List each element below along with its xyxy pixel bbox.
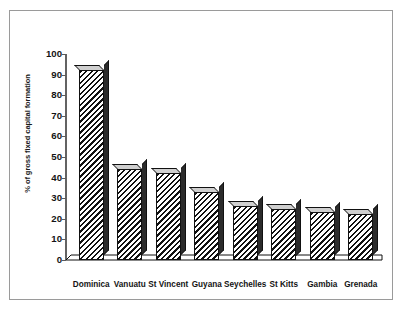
y-axis-tick-label: 20 <box>36 214 62 224</box>
bar <box>117 169 142 260</box>
bar-side-face <box>142 159 147 255</box>
y-axis-tick-label: 90 <box>36 70 62 80</box>
bar-front-face <box>194 192 219 260</box>
y-axis-tick-label: 30 <box>36 193 62 203</box>
bar <box>271 209 296 261</box>
bar-front-face <box>79 70 104 260</box>
bar <box>194 192 219 260</box>
bar <box>348 214 373 260</box>
y-axis-tick-mark <box>62 178 66 179</box>
y-axis-tick-mark <box>62 116 66 117</box>
bar-front-face <box>156 173 181 260</box>
bar-chart-plot-area: % of gross fixed capital formation 10090… <box>10 11 394 301</box>
bar-front-face <box>233 206 258 260</box>
y-axis-tick-labels: 1009080706050403020100 <box>34 11 62 301</box>
y-axis-tick-label: 10 <box>36 234 62 244</box>
bar <box>156 173 181 260</box>
y-axis-title: % of gross fixed capital formation <box>23 54 32 214</box>
y-axis-tick-mark <box>62 136 66 137</box>
x-axis-tick-label: Grenada <box>338 280 385 289</box>
bar-side-face <box>219 182 224 255</box>
y-axis-tick-mark <box>62 239 66 240</box>
bar <box>233 206 258 260</box>
y-axis-tick-mark <box>62 75 66 76</box>
bar-front-face <box>117 169 142 260</box>
bar <box>310 212 335 260</box>
y-axis-tick-mark <box>62 219 66 220</box>
y-axis-tick-label: 0 <box>36 255 62 265</box>
bar-side-face <box>181 163 186 255</box>
y-axis-tick-label: 100 <box>36 49 62 59</box>
y-axis-tick-mark <box>62 198 66 199</box>
y-axis-tick-label: 40 <box>36 173 62 183</box>
y-axis-tick-mark <box>62 157 66 158</box>
bar-side-face <box>258 196 263 255</box>
bar-side-face <box>373 204 378 255</box>
bar-front-face <box>348 214 373 260</box>
bar-side-face <box>104 60 109 255</box>
y-axis-tick-mark <box>62 54 66 55</box>
bar-front-face <box>271 209 296 261</box>
bar <box>79 70 104 260</box>
bar-side-face <box>335 202 340 255</box>
y-axis-tick-label: 70 <box>36 111 62 121</box>
chart-frame: % of gross fixed capital formation 10090… <box>9 10 393 300</box>
bar-front-face <box>310 212 335 260</box>
bar-side-face <box>296 199 301 256</box>
y-axis-tick-label: 60 <box>36 131 62 141</box>
y-axis-tick-mark <box>62 260 66 261</box>
y-axis-tick-mark <box>62 95 66 96</box>
y-axis-tick-label: 50 <box>36 152 62 162</box>
y-axis-tick-label: 80 <box>36 90 62 100</box>
